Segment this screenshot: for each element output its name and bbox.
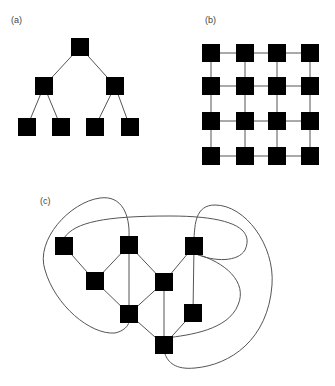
node [202,44,220,62]
node [301,77,319,95]
node [52,118,70,136]
node [121,118,139,136]
node [71,38,89,56]
curved-edge [165,205,272,368]
node [55,237,73,255]
node [184,304,202,322]
node [236,147,254,165]
node [268,147,286,165]
node [120,305,138,323]
node [86,118,104,136]
node [120,236,138,254]
panel-label: (c) [40,196,51,206]
node [185,237,203,255]
panel-label: (b) [205,15,216,25]
node [202,77,220,95]
node [18,118,36,136]
panel-b: (b) [202,15,319,165]
node [301,112,319,130]
node [301,44,319,62]
node [155,273,173,291]
node [35,77,53,95]
diagram-canvas: (a)(b)(c) [0,0,335,386]
node [236,77,254,95]
node [202,112,220,130]
node [202,147,220,165]
panel-c: (c) [40,196,272,368]
node [268,112,286,130]
curved-edge [64,216,247,260]
node [268,77,286,95]
panel-a: (a) [11,15,139,136]
node [268,44,286,62]
edge [193,246,194,313]
node [106,77,124,95]
node [155,336,173,354]
node [236,44,254,62]
node [301,147,319,165]
panel-label: (a) [11,15,22,25]
node [236,112,254,130]
node [86,272,104,290]
